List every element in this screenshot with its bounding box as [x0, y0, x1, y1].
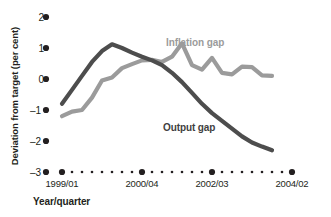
- x-axis-minor-dot: [161, 171, 164, 174]
- x-axis-minor-dot: [121, 171, 124, 174]
- y-axis-dots: [43, 14, 49, 175]
- x-axis-minor-dot: [191, 171, 194, 174]
- x-axis-minor-dot: [251, 171, 254, 174]
- y-axis-dot-minus-1: [43, 107, 49, 113]
- chart-container: Deviation from target (per cent) 2 1 0 –…: [0, 0, 331, 217]
- series-line-inflation-gap: [62, 43, 272, 116]
- y-axis-dot-minus-3: [43, 169, 49, 175]
- x-axis-minor-dot: [261, 171, 264, 174]
- x-axis-major-dot-2000-04: [139, 169, 145, 175]
- x-tick-label-2004-02: 2004/02: [264, 178, 320, 189]
- x-axis-major-dot-1999-01: [59, 169, 65, 175]
- x-axis-minor-dot: [201, 171, 204, 174]
- y-axis-dot-0: [43, 76, 49, 82]
- x-axis-minor-dot: [231, 171, 234, 174]
- x-axis-minor-dot: [111, 171, 114, 174]
- x-axis-minor-dot: [151, 171, 154, 174]
- x-axis-title: Year/quarter: [33, 196, 90, 207]
- y-axis-dot-1: [43, 45, 49, 51]
- series-annotation-output-gap: Output gap: [163, 122, 215, 133]
- x-axis-minor-dot: [81, 171, 84, 174]
- x-axis-major-dot-2004-02: [289, 169, 295, 175]
- x-axis-major-dot-2002-03: [209, 169, 215, 175]
- x-tick-label-2002-03: 2002/03: [184, 178, 240, 189]
- y-axis-dot-minus-2: [43, 138, 49, 144]
- x-tick-label-2000-04: 2000/04: [114, 178, 170, 189]
- x-axis-minor-dot: [131, 171, 134, 174]
- x-axis-minor-dot: [281, 171, 284, 174]
- x-axis-minor-dot: [221, 171, 224, 174]
- x-axis-dotted-baseline: [59, 169, 295, 175]
- x-axis-minor-dot: [91, 171, 94, 174]
- series-annotation-inflation-gap: Inflation gap: [166, 37, 224, 48]
- x-axis-minor-dot: [71, 171, 74, 174]
- x-axis-minor-dot: [171, 171, 174, 174]
- x-axis-minor-dot: [271, 171, 274, 174]
- x-axis-minor-dot: [241, 171, 244, 174]
- x-tick-label-1999-01: 1999/01: [34, 178, 90, 189]
- y-axis-dot-2: [43, 14, 49, 20]
- x-axis-minor-dot: [181, 171, 184, 174]
- x-axis-minor-dot: [101, 171, 104, 174]
